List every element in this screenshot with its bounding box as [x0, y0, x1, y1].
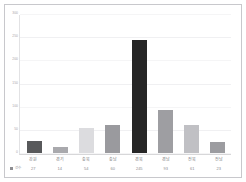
x-axis-label: 경기 — [47, 155, 74, 164]
bar[interactable] — [158, 110, 173, 153]
chart-card: 300250200150100500 강원경기충북충남경북경남전북전남 2714… — [4, 4, 242, 178]
bar-slot — [21, 15, 47, 153]
bar-slot — [47, 15, 73, 153]
x-axis-label: 강원 — [20, 155, 47, 164]
value-cell: 245 — [126, 164, 153, 173]
bar[interactable] — [184, 125, 199, 153]
y-axis-tick-label: 100 — [12, 105, 18, 108]
legend-label: 건수 — [15, 167, 21, 171]
x-axis-label: 충남 — [100, 155, 127, 164]
y-axis-tick-label: 200 — [12, 59, 18, 62]
x-axis-label: 경남 — [153, 155, 180, 164]
bar-slot — [152, 15, 178, 153]
bar[interactable] — [27, 141, 42, 153]
y-axis-tick-label: 250 — [12, 35, 18, 38]
value-cell: 93 — [153, 164, 180, 173]
bar-slot — [100, 15, 126, 153]
bar-series — [21, 15, 231, 153]
y-axis-tick-label: 150 — [12, 82, 18, 85]
bar[interactable] — [132, 40, 147, 153]
bar[interactable] — [79, 128, 94, 153]
bar-slot — [74, 15, 100, 153]
plot-area: 300250200150100500 — [19, 15, 231, 155]
x-axis-label: 전북 — [179, 155, 206, 164]
bar[interactable] — [53, 147, 68, 153]
bar-slot — [126, 15, 152, 153]
y-axis-tick-label: 50 — [14, 128, 18, 131]
value-cell: 60 — [100, 164, 127, 173]
value-cell: 14 — [47, 164, 74, 173]
value-table-row: 27145460245936123 — [20, 164, 232, 173]
legend-swatch — [10, 167, 13, 170]
value-cell: 54 — [73, 164, 100, 173]
gridline: 0 — [20, 153, 231, 154]
bar[interactable] — [210, 142, 225, 153]
x-axis-category-row: 강원경기충북충남경북경남전북전남 — [20, 155, 232, 164]
y-axis-tick-label: 0 — [16, 151, 18, 154]
bar-slot — [179, 15, 205, 153]
value-cell: 61 — [179, 164, 206, 173]
value-cell: 23 — [206, 164, 233, 173]
x-axis-label: 경북 — [126, 155, 153, 164]
y-axis-tick-label: 300 — [12, 12, 18, 15]
legend: 건수 — [10, 164, 21, 173]
x-axis-label: 충북 — [73, 155, 100, 164]
value-cell: 27 — [20, 164, 47, 173]
bar-slot — [205, 15, 231, 153]
x-axis-label: 전남 — [206, 155, 233, 164]
bar[interactable] — [105, 125, 120, 153]
